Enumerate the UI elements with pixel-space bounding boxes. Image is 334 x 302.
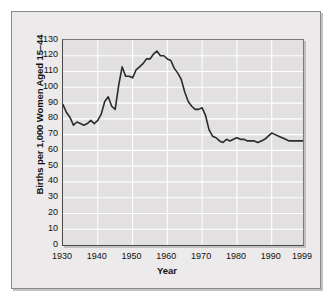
y-tick-0: 0: [32, 240, 58, 249]
x-tick-1930: 1930: [47, 252, 77, 261]
x-tick-1990: 1990: [256, 252, 286, 261]
data-series-line: [63, 51, 303, 142]
x-tick-1960: 1960: [151, 252, 181, 261]
y-tick-50: 50: [32, 161, 58, 170]
figure-frame: Births per 1,000 Women Aged 15–44 Year 1…: [11, 11, 321, 289]
y-tick-20: 20: [32, 208, 58, 217]
plot-panel: [62, 39, 304, 246]
x-tick-1970: 1970: [186, 252, 216, 261]
x-axis-title: Year: [12, 265, 322, 276]
y-tick-130: 130: [32, 35, 58, 44]
x-tick-1940: 1940: [82, 252, 112, 261]
y-tick-90: 90: [32, 98, 58, 107]
y-tick-120: 120: [32, 50, 58, 59]
x-tick-1980: 1980: [221, 252, 251, 261]
y-tick-110: 110: [32, 66, 58, 75]
y-tick-100: 100: [32, 82, 58, 91]
x-tick-1999: 1999: [287, 252, 317, 261]
y-tick-10: 10: [32, 224, 58, 233]
y-tick-80: 80: [32, 113, 58, 122]
y-tick-30: 30: [32, 192, 58, 201]
y-tick-60: 60: [32, 145, 58, 154]
gridlines: [63, 40, 303, 245]
y-tick-70: 70: [32, 129, 58, 138]
plot-svg: [63, 40, 303, 245]
birth-rate-line-chart: Births per 1,000 Women Aged 15–44 Year 1…: [12, 12, 322, 290]
y-tick-40: 40: [32, 176, 58, 185]
x-tick-1950: 1950: [117, 252, 147, 261]
